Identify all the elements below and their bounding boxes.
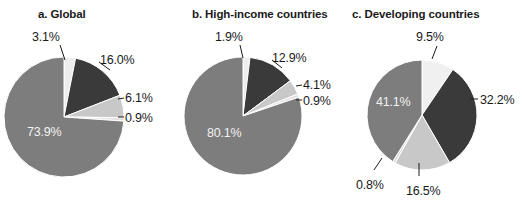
slice-label: 1.9% <box>215 30 243 44</box>
slice-label: 80.1% <box>207 126 241 140</box>
pie-a <box>4 57 124 177</box>
pie-chart-figure: a. Global3.1%16.0%6.1%0.9%73.9%b. High-i… <box>0 0 522 202</box>
leader-line <box>240 45 243 58</box>
slice-label: 73.9% <box>27 125 61 139</box>
slice-label: 16.0% <box>100 53 134 67</box>
panel-title-c: c. Developing countries <box>352 8 479 20</box>
slice-label: 3.1% <box>32 30 60 44</box>
slice-label: 4.1% <box>303 78 331 92</box>
slice-label: 41.1% <box>376 95 410 109</box>
leader-line <box>374 158 382 170</box>
panel-title-b: b. High-income countries <box>192 8 328 20</box>
pie-c <box>367 60 477 170</box>
slice-label: 12.9% <box>272 51 306 65</box>
slice-label: 0.9% <box>303 94 331 108</box>
pie-b <box>184 57 302 175</box>
panel-title-a: a. Global <box>38 8 86 20</box>
slice-label: 0.8% <box>356 178 384 192</box>
leader-line <box>296 85 302 86</box>
slice-label: 32.2% <box>480 93 514 107</box>
slice-label: 9.5% <box>416 30 444 44</box>
leader-line <box>432 46 437 59</box>
slice-label: 0.9% <box>125 111 153 125</box>
slice-label: 16.5% <box>406 184 440 198</box>
slice-label: 6.1% <box>125 91 153 105</box>
